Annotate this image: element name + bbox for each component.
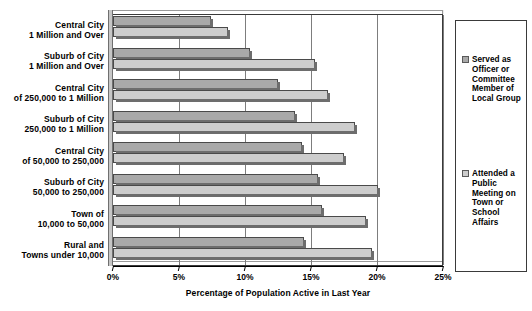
category-label-line: Town of <box>0 209 104 219</box>
bar-group <box>113 203 443 235</box>
bar-group <box>113 172 443 204</box>
bar <box>113 90 328 100</box>
bar <box>113 27 228 37</box>
bar <box>113 142 302 152</box>
category-label-line: of 50,000 to 250,000 <box>0 156 104 166</box>
x-axis-tick <box>178 266 180 271</box>
bar <box>113 59 315 69</box>
category-label-line: of 250,000 to 1 Million <box>0 93 104 103</box>
category-label-line: 1 Million and Over <box>0 30 104 40</box>
bar-group <box>113 109 443 141</box>
x-axis-tick <box>112 266 114 271</box>
bar <box>113 185 378 195</box>
category-label: Central Cityof 250,000 to 1 Million <box>0 83 104 103</box>
x-axis-tick-label: 25% <box>434 272 451 282</box>
x-axis-tick-label: 10% <box>236 272 253 282</box>
category-label-line: 50,000 to 250,000 <box>0 187 104 197</box>
gridline <box>443 15 444 265</box>
category-label: Suburb of City1 Million and Over <box>0 51 104 71</box>
x-axis-tick-label: 5% <box>173 272 185 282</box>
legend-swatch <box>462 170 469 177</box>
category-axis: Central City1 Million and OverSuburb of … <box>0 14 108 266</box>
category-label-line: Central City <box>0 20 104 30</box>
category-label: Central Cityof 50,000 to 250,000 <box>0 146 104 166</box>
category-label: Town of10,000 to 50,000 <box>0 209 104 229</box>
category-label-line: 1 Million and Over <box>0 61 104 71</box>
x-axis-line <box>113 266 443 267</box>
bar-group <box>113 77 443 109</box>
legend-label: Served as Officer or Committee Member of… <box>472 55 526 104</box>
bar-group <box>113 46 443 78</box>
x-axis-tick <box>310 266 312 271</box>
category-label: Suburb of City250,000 to 1 Million <box>0 114 104 134</box>
legend-item: Attended a Public Meeting on Town or Sch… <box>462 169 526 228</box>
bar <box>113 237 304 247</box>
legend-label: Attended a Public Meeting on Town or Sch… <box>472 169 526 228</box>
category-label-line: Central City <box>0 83 104 93</box>
category-label-line: Towns under 10,000 <box>0 250 104 260</box>
x-axis-title: Percentage of Population Active in Last … <box>113 288 443 298</box>
legend-item: Served as Officer or Committee Member of… <box>462 55 526 104</box>
category-label-line: 10,000 to 50,000 <box>0 219 104 229</box>
category-label-line: Suburb of City <box>0 114 104 124</box>
bar-chart: Central City1 Million and OverSuburb of … <box>0 0 532 311</box>
x-axis-tick-label: 15% <box>302 272 319 282</box>
legend: Served as Officer or Committee Member of… <box>455 20 527 272</box>
bar <box>113 205 322 215</box>
category-label-line: Suburb of City <box>0 177 104 187</box>
category-label-line: Central City <box>0 146 104 156</box>
category-label: Central City1 Million and Over <box>0 20 104 40</box>
bar <box>113 122 355 132</box>
x-axis-tick-label: 0% <box>107 272 119 282</box>
bar <box>113 153 344 163</box>
legend-swatch <box>462 56 469 63</box>
bar <box>113 48 250 58</box>
x-axis-tick <box>376 266 378 271</box>
bar <box>113 248 372 258</box>
bar-group <box>113 140 443 172</box>
x-axis-tick-label: 20% <box>368 272 385 282</box>
x-axis-tick <box>244 266 246 271</box>
bar <box>113 174 318 184</box>
bar-series-container <box>113 14 443 266</box>
category-label: Suburb of City50,000 to 250,000 <box>0 177 104 197</box>
x-axis-tick <box>442 266 444 271</box>
bar-group <box>113 14 443 46</box>
bar <box>113 216 366 226</box>
category-label: Rural andTowns under 10,000 <box>0 240 104 260</box>
bar <box>113 16 211 26</box>
category-label-line: 250,000 to 1 Million <box>0 124 104 134</box>
category-label-line: Rural and <box>0 240 104 250</box>
bar-group <box>113 235 443 267</box>
category-label-line: Suburb of City <box>0 51 104 61</box>
bar <box>113 79 278 89</box>
x-axis: 0%5%10%15%20%25% <box>113 266 443 284</box>
bar <box>113 111 295 121</box>
